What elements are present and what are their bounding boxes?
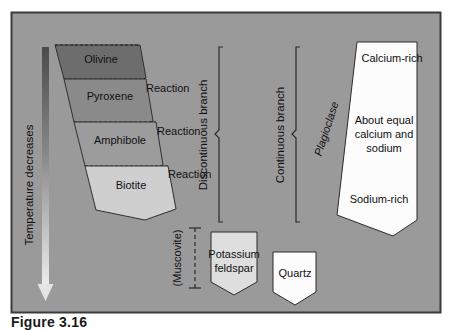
plagioclase-zone-equal-line2: calcium and <box>355 128 414 140</box>
figure-container: Temperature decreases Olivine Pyroxene A… <box>0 0 454 331</box>
continuous-branch-label: Continuous branch <box>274 87 286 184</box>
temperature-axis-label: Temperature decreases <box>23 124 35 245</box>
figure-caption: Figure 3.16 <box>11 314 87 330</box>
reaction-label-2: Reaction <box>157 125 200 137</box>
muscovite-label: (Muscovite) <box>171 230 183 287</box>
discontinuous-branch-label: Discontinuous branch <box>197 80 209 191</box>
plagioclase-zone-equal-line3: sodium <box>366 142 401 154</box>
mineral-label-olivine: Olivine <box>84 53 118 65</box>
mineral-label-amphibole: Amphibole <box>94 134 146 146</box>
plagioclase-zone-calcium-rich: Calcium-rich <box>361 52 422 64</box>
plagioclase-zone-equal-line1: About equal <box>355 114 414 126</box>
plagioclase-zone-sodium-rich: Sodium-rich <box>350 193 409 205</box>
reaction-label-1: Reaction <box>146 82 189 94</box>
potassium-feldspar-label-line2: feldspar <box>214 262 253 274</box>
potassium-feldspar-label-line1: Potassium <box>208 248 259 260</box>
bowens-reaction-series-diagram: Temperature decreases Olivine Pyroxene A… <box>0 0 454 331</box>
mineral-label-biotite: Biotite <box>116 179 147 191</box>
quartz-label: Quartz <box>278 267 311 279</box>
mineral-label-pyroxene: Pyroxene <box>87 90 133 102</box>
